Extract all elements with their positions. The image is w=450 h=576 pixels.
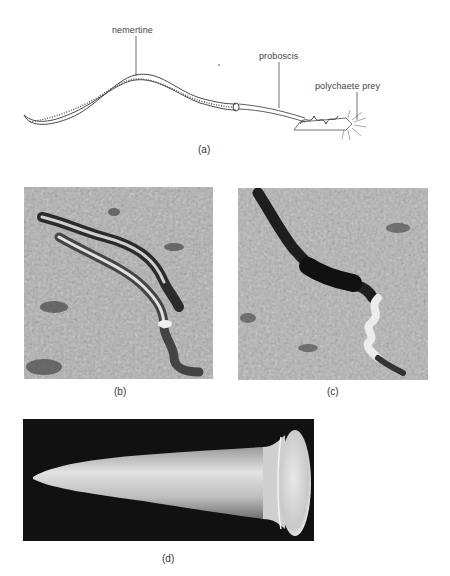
panel-c-photo: [238, 188, 428, 380]
nemertine-label: nemertine: [112, 25, 153, 35]
nemertine-attacking-photo: [24, 187, 213, 379]
polychaete-prey-label: polychaete prey: [315, 81, 380, 91]
nemertine-engulfing-photo: [238, 188, 428, 380]
panel-a-drawing: [0, 0, 450, 165]
panel-b-photo: [24, 187, 213, 379]
panel-d-caption: (d): [162, 553, 174, 564]
panel-a-caption: (a): [198, 144, 210, 155]
panel-c-caption: (c): [327, 386, 339, 397]
panel-d-sem-image: [23, 419, 314, 541]
proboscis-label: proboscis: [259, 51, 298, 61]
nemertine-illustration: [0, 0, 450, 165]
stylet-sem-photo: [23, 419, 314, 541]
panel-b-caption: (b): [114, 386, 126, 397]
